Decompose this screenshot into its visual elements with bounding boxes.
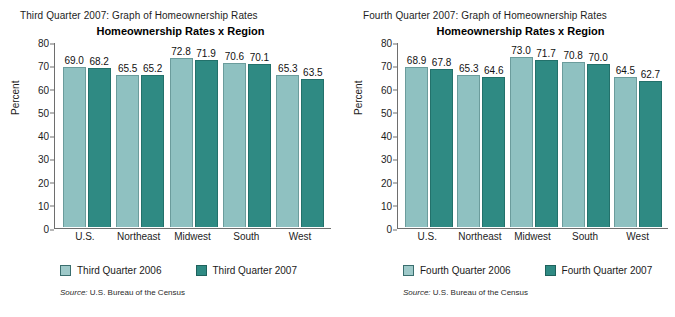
bar-group: 70.670.1 (220, 43, 273, 227)
y-tick-label: 70 (38, 61, 54, 72)
legend-item[interactable]: Fourth Quarter 2006 (403, 265, 511, 276)
y-axis-ticks: 80706050403020100 (24, 43, 54, 229)
source-note: Source: U.S. Bureau of the Census (403, 288, 674, 297)
bar-series2[interactable]: 63.5 (301, 79, 324, 227)
chart-panel-fourth-quarter: Fourth Quarter 2007: Graph of Homeowners… (337, 0, 674, 317)
legend-item[interactable]: Fourth Quarter 2007 (545, 265, 653, 276)
legend-label: Third Quarter 2007 (213, 265, 298, 276)
x-axis-ticks: U.S.NortheastMidwestSouthWest (54, 231, 331, 242)
bar-series1[interactable]: 73.0 (510, 57, 533, 227)
bar-value-label: 67.8 (432, 57, 451, 68)
chart-title: Homeownership Rates x Region (367, 25, 674, 37)
bar-group: 72.871.9 (167, 43, 220, 227)
legend-label: Third Quarter 2006 (77, 265, 162, 276)
x-tick-label: U.S. (401, 231, 454, 242)
y-tick-label: 0 (386, 224, 397, 235)
bar-group: 65.363.5 (274, 43, 327, 227)
bar-series1[interactable]: 70.8 (562, 62, 585, 227)
legend-label: Fourth Quarter 2006 (420, 265, 511, 276)
x-tick-label: Northeast (112, 231, 166, 242)
y-tick-label: 80 (38, 38, 54, 49)
plot-canvas: 68.967.865.364.673.071.770.870.064.562.7 (397, 43, 668, 229)
x-tick-label: West (611, 231, 664, 242)
y-tick-label: 40 (38, 131, 54, 142)
chart-legend: Fourth Quarter 2006Fourth Quarter 2007 (403, 265, 674, 276)
bar-group: 73.071.7 (507, 43, 559, 227)
bar-value-label: 68.9 (407, 55, 426, 66)
y-tick-label: 30 (38, 154, 54, 165)
bar-series2[interactable]: 70.1 (248, 64, 271, 227)
x-axis-ticks: U.S.NortheastMidwestSouthWest (397, 231, 668, 242)
x-tick-label: Midwest (506, 231, 559, 242)
y-tick-label: 30 (381, 154, 397, 165)
bar-series2[interactable]: 64.6 (482, 77, 505, 227)
bar-group: 65.364.6 (455, 43, 507, 227)
bar-series2[interactable]: 71.7 (535, 60, 558, 227)
chart-panel-third-quarter: Third Quarter 2007: Graph of Homeownersh… (0, 0, 337, 317)
bar-value-label: 65.3 (278, 63, 297, 74)
y-tick-label: 60 (381, 84, 397, 95)
chart-title: Homeownership Rates x Region (24, 25, 337, 37)
bar-series1[interactable]: 72.8 (170, 58, 193, 227)
bar-groups: 68.967.865.364.673.071.770.870.064.562.7 (399, 43, 668, 227)
bar-value-label: 69.0 (64, 55, 83, 66)
y-tick-label: 70 (381, 61, 397, 72)
bar-group: 69.068.2 (60, 43, 113, 227)
x-tick-label: South (559, 231, 612, 242)
y-tick-label: 10 (38, 200, 54, 211)
y-axis-label: Percent (10, 81, 21, 115)
legend-swatch-icon (403, 265, 414, 276)
bar-value-label: 62.7 (641, 69, 660, 80)
y-axis-label: Percent (353, 81, 364, 115)
bar-series1[interactable]: 68.9 (405, 67, 428, 227)
source-text: U.S. Bureau of the Census (433, 288, 528, 297)
bar-series2[interactable]: 67.8 (430, 69, 453, 227)
bar-value-label: 65.5 (118, 63, 137, 74)
x-tick-label: Midwest (166, 231, 220, 242)
legend-swatch-icon (60, 265, 71, 276)
source-note: Source: U.S. Bureau of the Census (60, 288, 337, 297)
bar-value-label: 64.5 (616, 65, 635, 76)
legend-item[interactable]: Third Quarter 2006 (60, 265, 162, 276)
bar-series1[interactable]: 65.3 (276, 75, 299, 227)
bar-value-label: 70.1 (250, 52, 269, 63)
bar-value-label: 71.9 (196, 48, 215, 59)
bar-series1[interactable]: 64.5 (614, 77, 637, 227)
chart-sheet: Third Quarter 2007: Graph of Homeownersh… (0, 0, 675, 317)
bar-series1[interactable]: 65.3 (457, 75, 480, 227)
plot-canvas: 69.068.265.565.272.871.970.670.165.363.5 (54, 43, 331, 229)
y-tick-label: 50 (38, 107, 54, 118)
bar-value-label: 64.6 (484, 65, 503, 76)
bar-group: 65.565.2 (113, 43, 166, 227)
bar-series2[interactable]: 70.0 (587, 64, 610, 227)
legend-label: Fourth Quarter 2007 (562, 265, 653, 276)
y-tick-label: 10 (381, 200, 397, 211)
bar-series1[interactable]: 70.6 (223, 63, 246, 227)
y-tick-label: 0 (43, 224, 54, 235)
bar-value-label: 70.8 (563, 50, 582, 61)
bar-series2[interactable]: 71.9 (195, 60, 218, 227)
legend-item[interactable]: Third Quarter 2007 (196, 265, 298, 276)
bar-group: 64.562.7 (612, 43, 664, 227)
legend-swatch-icon (196, 265, 207, 276)
bar-series1[interactable]: 69.0 (63, 67, 86, 227)
bar-series2[interactable]: 65.2 (141, 75, 164, 227)
bar-value-label: 70.6 (225, 51, 244, 62)
x-tick-label: Northeast (454, 231, 507, 242)
bar-value-label: 70.0 (588, 52, 607, 63)
x-tick-label: South (219, 231, 273, 242)
plot-area: Percent 80706050403020100 69.068.265.565… (12, 43, 337, 249)
panel-caption: Third Quarter 2007: Graph of Homeownersh… (20, 10, 337, 21)
bar-series2[interactable]: 62.7 (639, 81, 662, 227)
bar-series1[interactable]: 65.5 (116, 75, 139, 227)
legend-swatch-icon (545, 265, 556, 276)
y-tick-label: 20 (381, 177, 397, 188)
y-axis-ticks: 80706050403020100 (367, 43, 397, 229)
y-tick-label: 50 (381, 107, 397, 118)
source-text: U.S. Bureau of the Census (90, 288, 185, 297)
bar-value-label: 65.3 (459, 63, 478, 74)
bar-group: 68.967.8 (403, 43, 455, 227)
bar-series2[interactable]: 68.2 (88, 68, 111, 227)
panel-caption: Fourth Quarter 2007: Graph of Homeowners… (363, 10, 674, 21)
x-tick-label: U.S. (58, 231, 112, 242)
